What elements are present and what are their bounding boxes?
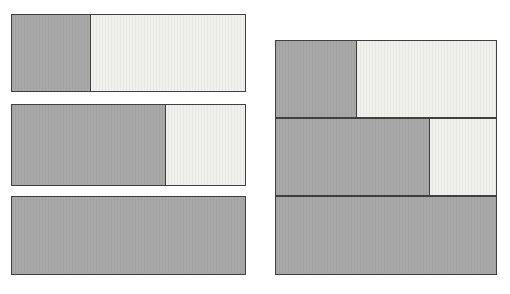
bar-row (11, 196, 246, 275)
right-bar-group (275, 40, 497, 275)
bar-filled-segment (12, 15, 91, 91)
bar-row (275, 196, 497, 275)
bar-row (275, 40, 497, 118)
bar-filled-segment (12, 197, 245, 274)
bar-filled-segment (276, 119, 430, 195)
left-bar-group (11, 14, 246, 275)
figure-canvas (0, 0, 510, 294)
bar-row (11, 14, 246, 92)
bar-row (275, 118, 497, 196)
bar-filled-segment (276, 41, 357, 117)
bar-filled-segment (276, 197, 496, 274)
bar-row (11, 104, 246, 186)
bar-filled-segment (12, 105, 166, 185)
